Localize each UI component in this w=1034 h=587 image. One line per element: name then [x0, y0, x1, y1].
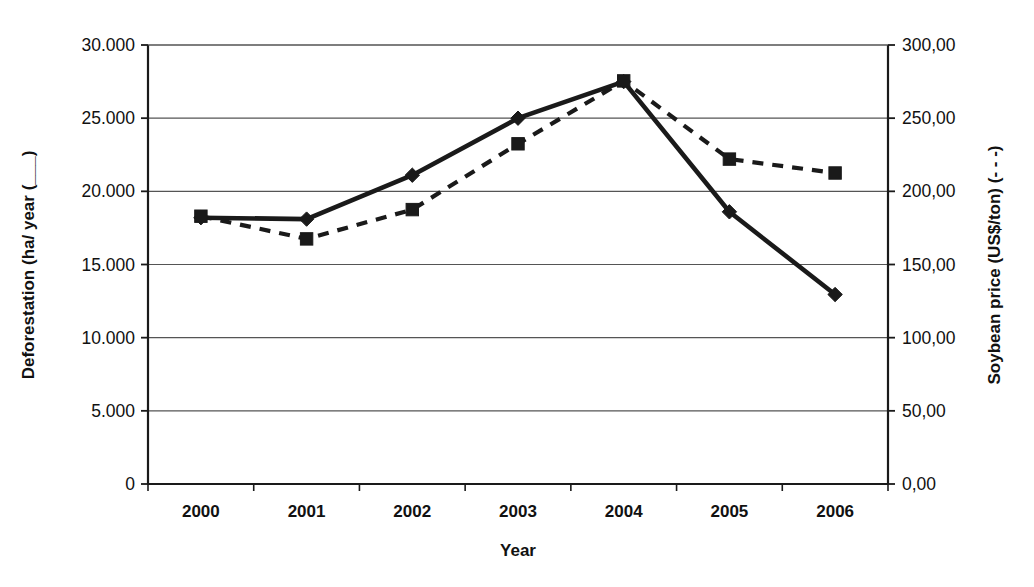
data-point-marker-square	[829, 167, 841, 179]
series-markers	[194, 74, 843, 301]
right-axis-tick-labels: 0,0050,00100,00150,00200,00250,00300,00	[902, 35, 956, 494]
data-point-marker-square	[723, 153, 735, 165]
left-tick-label: 10.000	[81, 328, 135, 348]
right-tick-label: 300,00	[902, 35, 956, 55]
left-tick-label: 0	[125, 474, 135, 494]
right-tick-label: 100,00	[902, 328, 956, 348]
x-tick-label: 2001	[288, 502, 326, 521]
data-point-marker-square	[512, 138, 524, 150]
x-tick-label: 2004	[605, 502, 643, 521]
series-line-2	[201, 81, 835, 239]
right-tick-label: 250,00	[902, 108, 956, 128]
right-tick-label: 150,00	[902, 255, 956, 275]
left-tick-label: 20.000	[81, 181, 135, 201]
right-axis-title: Soybean price (US$/ton) (- - -)	[985, 146, 1004, 385]
chart-canvas: 05.00010.00015.00020.00025.00030.000 0,0…	[0, 0, 1034, 587]
right-tick-label: 50,00	[902, 401, 946, 421]
x-axis-title: Year	[500, 541, 536, 560]
data-point-marker-square	[195, 210, 207, 222]
left-tick-label: 15.000	[81, 255, 135, 275]
left-tick-label: 5.000	[91, 401, 135, 421]
x-tick-label: 2005	[711, 502, 749, 521]
left-tick-label: 30.000	[81, 35, 135, 55]
x-tick-label: 2003	[499, 502, 537, 521]
x-tick-label: 2002	[393, 502, 431, 521]
data-point-marker-square	[618, 75, 630, 87]
data-point-marker-square	[300, 233, 312, 245]
right-tick-label: 0,00	[902, 474, 936, 494]
left-axis-tick-labels: 05.00010.00015.00020.00025.00030.000	[81, 35, 135, 494]
data-point-marker-square	[406, 203, 418, 215]
data-point-marker-diamond	[299, 212, 313, 226]
x-tick-label: 2006	[816, 502, 854, 521]
chart-figure: 05.00010.00015.00020.00025.00030.000 0,0…	[0, 0, 1034, 587]
left-tick-label: 25.000	[81, 108, 135, 128]
x-tick-label: 2000	[182, 502, 220, 521]
x-axis-category-labels: 2000200120022003200420052006	[182, 502, 854, 521]
left-axis-title: Deforestation (ha/ year (___)	[19, 151, 38, 380]
right-tick-label: 200,00	[902, 181, 956, 201]
